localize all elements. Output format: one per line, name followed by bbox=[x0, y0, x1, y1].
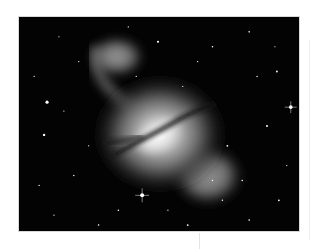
divider-line-right bbox=[309, 40, 310, 240]
galaxy-photo bbox=[18, 16, 300, 232]
galaxy-image bbox=[19, 17, 299, 231]
divider-line bbox=[199, 233, 200, 249]
